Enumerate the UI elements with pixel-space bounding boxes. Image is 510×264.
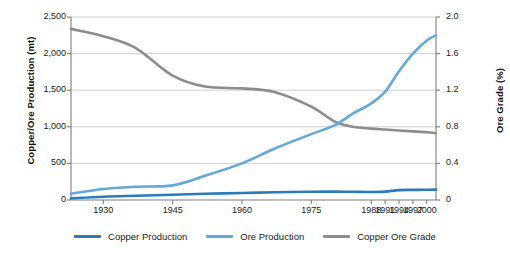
y-axis-left-tick-label: 500 xyxy=(24,157,66,167)
legend-item-label: Copper Production xyxy=(108,231,187,242)
x-axis-tick-label: 2000 xyxy=(407,205,447,215)
y-axis-right-tick-label: 1.2 xyxy=(446,84,486,94)
tick-marks xyxy=(67,17,440,204)
y-axis-right-tick-label: 2.0 xyxy=(446,11,486,21)
y-axis-left-tick-label: 2,500 xyxy=(24,11,66,21)
y-axis-left-tick-label: 1,000 xyxy=(24,121,66,131)
chart-legend: Copper ProductionOre ProductionCopper Or… xyxy=(0,231,510,242)
y-axis-right-tick-label: 0 xyxy=(446,194,486,204)
legend-swatch-icon xyxy=(323,235,350,238)
legend-item[interactable]: Copper Ore Grade xyxy=(323,231,436,242)
data-series xyxy=(71,29,436,199)
x-axis-tick-label: 1975 xyxy=(291,205,331,215)
x-axis-tick-label: 1930 xyxy=(83,205,123,215)
y-axis-left-tick-label: 0 xyxy=(24,194,66,204)
series-line-copper-production xyxy=(71,190,436,199)
y-axis-left-tick-label: 1,500 xyxy=(24,84,66,94)
y-axis-right-tick-label: 0.8 xyxy=(446,121,486,131)
series-line-copper-ore-grade xyxy=(71,29,436,133)
x-axis-tick-label: 1960 xyxy=(222,205,262,215)
legend-item-label: Ore Production xyxy=(240,231,304,242)
legend-swatch-icon xyxy=(74,235,101,238)
y-axis-right-tick-label: 0.4 xyxy=(446,157,486,167)
y-axis-right-tick-label: 1.6 xyxy=(446,48,486,58)
copper-ore-production-chart: Copper/Ore Production (mt) Ore Grade (%)… xyxy=(0,0,510,264)
legend-item-label: Copper Ore Grade xyxy=(357,231,436,242)
legend-item[interactable]: Copper Production xyxy=(74,231,187,242)
y-axis-left-tick-label: 2,000 xyxy=(24,48,66,58)
plot-area xyxy=(0,0,510,264)
series-line-ore-production xyxy=(71,35,436,193)
legend-swatch-icon xyxy=(206,235,233,238)
legend-item[interactable]: Ore Production xyxy=(206,231,304,242)
x-axis-tick-label: 1945 xyxy=(153,205,193,215)
